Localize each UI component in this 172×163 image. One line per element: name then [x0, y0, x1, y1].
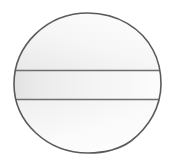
- region-top-cap: [0, 0, 172, 71]
- shape-diagram-canvas: [0, 0, 172, 163]
- region-middle-band: [0, 71, 172, 100]
